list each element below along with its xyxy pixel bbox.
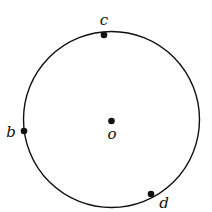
label-o: o — [107, 125, 116, 143]
label-b: b — [6, 123, 16, 141]
label-c: c — [100, 11, 109, 29]
point-d — [148, 191, 155, 198]
label-d: d — [159, 194, 169, 212]
circle-diagram: o c b d — [0, 0, 212, 212]
point-b — [21, 128, 28, 135]
point-o — [108, 118, 115, 125]
point-c — [101, 32, 108, 39]
